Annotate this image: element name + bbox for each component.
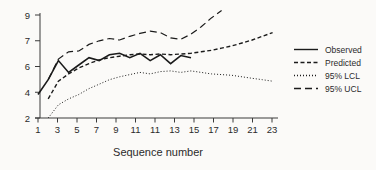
95-ucl-line (48, 11, 221, 80)
x-tick-label: 23 (267, 124, 278, 135)
x-axis-title: Sequence number (58, 146, 258, 158)
x-tick-label: 21 (247, 124, 258, 135)
legend-item-predicted: Predicted (293, 58, 362, 67)
legend-item-lcl: 95% LCL (293, 71, 362, 80)
observed-line (38, 53, 191, 94)
y-tick-label: 2 (25, 113, 30, 124)
95-lcl-line (48, 71, 272, 118)
legend-item-ucl: 95% UCL (293, 84, 362, 93)
lcl-line-icon (293, 71, 319, 80)
legend: Observed Predicted 95% LCL 95% UCL (293, 45, 362, 93)
predicted-line (48, 33, 272, 99)
predicted-line-icon (293, 58, 319, 67)
x-tick-label: 17 (208, 124, 219, 135)
y-tick-label: 9 (25, 10, 30, 21)
x-tick-label: 7 (94, 124, 99, 135)
x-tick-label: 19 (228, 124, 239, 135)
legend-label-predicted: Predicted (325, 58, 361, 68)
x-tick-label: 3 (55, 124, 60, 135)
legend-label-observed: Observed (325, 45, 362, 55)
x-tick-label: 9 (113, 124, 118, 135)
legend-label-lcl: 95% LCL (325, 71, 360, 81)
y-tick-label: 6 (25, 61, 30, 72)
x-tick-label: 15 (189, 124, 200, 135)
x-tick-label: 13 (169, 124, 180, 135)
x-tick-label: 11 (131, 124, 141, 135)
x-tick-label: 11 (150, 124, 160, 135)
sequence-chart-figure: 97642135791111131517192123 Sequence numb… (0, 0, 376, 170)
legend-label-ucl: 95% UCL (325, 84, 361, 94)
ucl-line-icon (293, 84, 319, 93)
x-tick-label: 5 (74, 124, 79, 135)
legend-item-observed: Observed (293, 45, 362, 54)
y-tick-label: 4 (25, 87, 30, 98)
x-tick-label: 1 (35, 124, 40, 135)
observed-line-icon (293, 45, 319, 54)
y-tick-label: 7 (25, 35, 30, 46)
